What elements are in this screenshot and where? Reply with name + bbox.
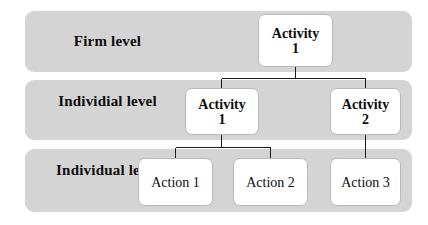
diagram-canvas: Firm level Individial level Individual l… <box>0 0 428 225</box>
node-firm-activity-1[interactable]: Activity 1 <box>258 14 333 67</box>
node-mid-activity-2-line1: Activity <box>342 97 389 112</box>
node-firm-activity-1-line1: Activity <box>272 26 319 41</box>
node-mid-activity-1-line2: 1 <box>198 112 245 127</box>
node-action-3-label: Action 3 <box>341 175 390 190</box>
node-action-1[interactable]: Action 1 <box>138 158 213 206</box>
node-action-2[interactable]: Action 2 <box>233 158 308 206</box>
node-action-1-label: Action 1 <box>151 175 200 190</box>
node-firm-activity-1-line2: 1 <box>272 41 319 56</box>
node-mid-activity-1-line1: Activity <box>198 97 245 112</box>
node-action-3[interactable]: Action 3 <box>330 158 401 206</box>
node-mid-activity-2[interactable]: Activity 2 <box>330 88 401 135</box>
node-mid-activity-1[interactable]: Activity 1 <box>185 88 259 135</box>
node-mid-activity-2-line2: 2 <box>342 112 389 127</box>
node-action-2-label: Action 2 <box>246 175 295 190</box>
